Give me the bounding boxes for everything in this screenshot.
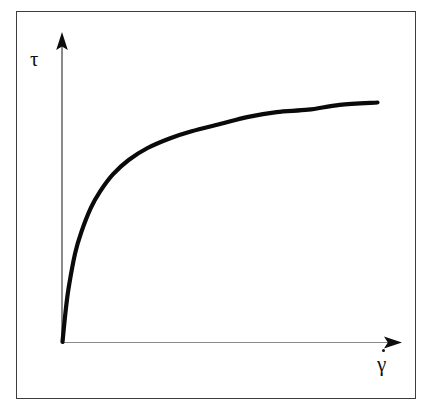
x-axis-label-group: γ: [374, 349, 396, 379]
x-axis-label: γ: [377, 354, 386, 375]
flow-curve-chart: [0, 0, 427, 412]
y-axis-label: τ: [30, 49, 38, 70]
chart-plot-area: [0, 0, 427, 412]
figure-root: τ γ: [0, 0, 427, 412]
flow-curve-path: [63, 103, 378, 343]
